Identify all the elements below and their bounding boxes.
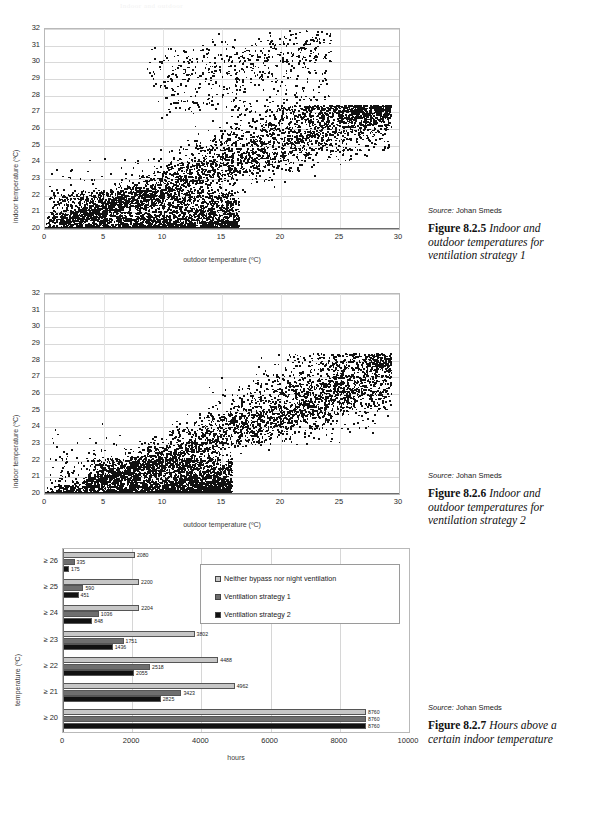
scatter-point [246,66,248,68]
bar[interactable] [63,723,366,729]
scatter-point [235,209,237,211]
scatter-point [188,487,190,489]
scatter-point [347,428,349,430]
bar[interactable] [63,585,83,591]
scatter-point [213,418,215,420]
scatter-point [158,187,160,189]
bar[interactable] [63,605,139,611]
bar[interactable] [63,592,79,598]
scatter-point [328,369,330,371]
bar[interactable] [63,716,366,722]
scatter-point [209,447,211,449]
scatter-point [363,368,365,370]
bar[interactable] [63,559,75,565]
legend-item[interactable]: Neither bypass nor night ventilation [215,574,336,583]
scatter-point [356,382,358,384]
bar[interactable] [63,552,135,558]
scatter-point [290,69,292,71]
scatter-point [267,147,269,149]
scatter-point [297,422,299,424]
scatter-point [265,383,267,385]
scatter-point [352,149,354,151]
scatter-point [285,391,287,393]
bar[interactable] [63,618,92,624]
bar[interactable] [63,683,235,689]
scatter-point [232,148,234,150]
scatter-point [230,126,232,128]
scatter-point [314,386,316,388]
bar[interactable] [63,690,181,696]
scatter-point [115,465,117,467]
scatter-point [345,385,347,387]
scatter-point [178,222,180,224]
scatter-point [372,373,374,375]
scatter-point [101,461,103,463]
scatter-point [77,198,79,200]
scatter-point [270,406,272,408]
scatter-point [170,188,172,190]
scatter-point [271,40,273,42]
scatter-point [256,410,258,412]
scatter-point [214,196,216,198]
scatter-point [324,112,326,114]
scatter-point [120,221,122,223]
scatter-point [130,449,132,451]
scatter-point [243,57,245,59]
scatter-point [175,69,177,71]
scatter-point [239,70,241,72]
scatter-point [153,205,155,207]
scatter-point [257,136,259,138]
scatter-point [224,395,226,397]
scatter-point [244,415,246,417]
scatter-point [299,126,301,128]
scatter-point [390,383,392,385]
scatter-point [283,110,285,112]
bar[interactable] [63,670,134,676]
scatter-point [219,85,221,87]
scatter-point [200,467,202,469]
scatter-point [174,199,176,201]
scatter-point [221,163,223,165]
scatter-point [259,431,261,433]
scatter-point [230,461,232,463]
bar[interactable] [63,657,218,663]
scatter-point [61,211,63,213]
bar[interactable] [63,631,195,637]
scatter-point [87,210,89,212]
bar[interactable] [63,644,113,650]
scatter-point [161,463,163,465]
scatter-point [211,466,213,468]
scatter-point [223,195,225,197]
scatter-point [201,186,203,188]
scatter-point [164,172,166,174]
scatter-point [166,114,168,116]
bar[interactable] [63,579,139,585]
legend-item[interactable]: Ventilation strategy 2 [215,610,291,619]
scatter-point [319,380,321,382]
scatter-point [248,421,250,423]
bar[interactable] [63,664,150,670]
scatter-point [124,483,126,485]
scatter-point [214,461,216,463]
scatter-point [230,455,232,457]
scatter-point [61,216,63,218]
scatter-point [276,118,278,120]
scatter-point [173,158,175,160]
scatter-point [196,147,198,149]
bar[interactable] [63,696,161,702]
bar[interactable] [63,611,99,617]
bar[interactable] [63,638,124,644]
scatter-point [260,142,262,144]
scatter-point [191,487,193,489]
scatter-point [324,386,326,388]
scatter-point [297,154,299,156]
scatter-point [320,133,322,135]
legend-item[interactable]: Ventilation strategy 1 [215,592,291,601]
scatter-point [373,146,375,148]
scatter-point [211,187,213,189]
scatter-point [168,451,170,453]
bar[interactable] [63,709,366,715]
scatter-point [252,439,254,441]
scatter-point [204,199,206,201]
scatter-point [327,393,329,395]
